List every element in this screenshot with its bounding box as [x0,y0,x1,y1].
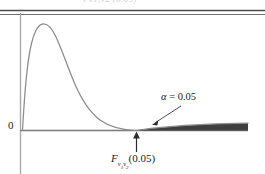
nu-one-index: 1 [121,165,124,170]
critical-f-symbol: F [111,152,118,164]
alpha-leader-arrowhead [152,121,158,126]
f-distribution-figure: Fv1,v2 (0.05) 0 α = 0.05 Fν1ν2(0.05) [0,0,265,174]
critical-value-label: Fν1ν2(0.05) [111,153,155,166]
critical-subscript: ν1ν2 [118,160,129,167]
alpha-leader-line [156,106,182,123]
critical-value-arrowhead [133,132,140,139]
alpha-value: 0.05 [178,91,196,102]
critical-argument: (0.05) [129,152,156,164]
origin-label: 0 [8,120,14,131]
nu-two-index: 2 [126,165,129,170]
alpha-equals-sign: = [167,91,178,102]
figure-canvas [0,0,265,174]
alpha-level-label: α = 0.05 [161,92,196,103]
f-density-curve [23,24,249,131]
